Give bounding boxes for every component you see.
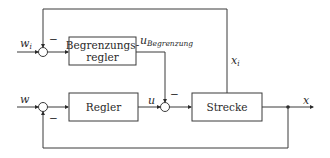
u-junction-minus-sign: − bbox=[170, 88, 179, 100]
lower-summing-junction bbox=[39, 103, 48, 112]
lower-junction-minus-sign: − bbox=[49, 112, 58, 124]
control-block-diagram: wi − Begrenzungs- regler uBegrenzung xi … bbox=[0, 0, 330, 158]
u-label: u bbox=[148, 94, 155, 107]
u-limit-label: uBegrenzung bbox=[140, 34, 193, 48]
w-label: w bbox=[20, 93, 30, 106]
controller-label: Regler bbox=[86, 101, 122, 113]
arrow-head bbox=[310, 105, 314, 109]
xi-label: xi bbox=[231, 54, 240, 68]
arrow-head bbox=[188, 105, 192, 109]
wi-label: wi bbox=[20, 37, 32, 51]
upper-junction-minus-sign: − bbox=[49, 33, 58, 45]
limiter-label-line1: Begrenzungs- bbox=[66, 39, 140, 51]
plant-label: Strecke bbox=[206, 101, 247, 113]
x-label: x bbox=[303, 94, 310, 107]
limiter-label-line2: regler bbox=[86, 51, 120, 63]
u-summing-junction bbox=[161, 103, 170, 112]
upper-summing-junction bbox=[39, 48, 48, 57]
arrow-head bbox=[65, 105, 69, 109]
